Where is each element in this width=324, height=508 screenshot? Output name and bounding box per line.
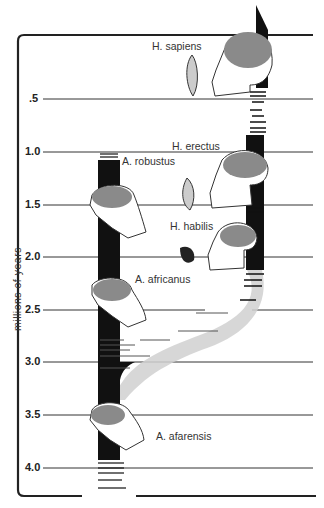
label-h-erectus: H. erectus [172,140,220,152]
tick-label-4-0: 4.0 [25,461,40,473]
stone-tool-habilis [180,247,194,263]
label-a-africanus: A. africanus [135,273,190,285]
axis-title: millions of years [11,234,23,344]
tick-label-1-5: 1.5 [25,198,40,210]
transition-band [110,270,264,400]
tick-label-2-0: 2.0 [25,250,40,262]
label-h-sapiens: H. sapiens [152,40,202,52]
hominid-evolution-diagram: .5 1.0 1.5 2.0 2.5 3.0 3.5 4.0 millions … [0,0,324,508]
label-h-habilis: H. habilis [170,220,213,232]
tick-label-3-0: 3.0 [25,355,40,367]
frame-border [18,35,316,496]
label-a-afarensis: A. afarensis [156,430,211,442]
tick-label-1-0: 1.0 [25,145,40,157]
tick-label-2-5: 2.5 [25,303,40,315]
label-a-robustus: A. robustus [122,155,175,167]
stone-tool-handaxe [187,55,198,96]
tick-label-0-5: .5 [29,92,38,104]
tick-label-3-5: 3.5 [25,408,40,420]
